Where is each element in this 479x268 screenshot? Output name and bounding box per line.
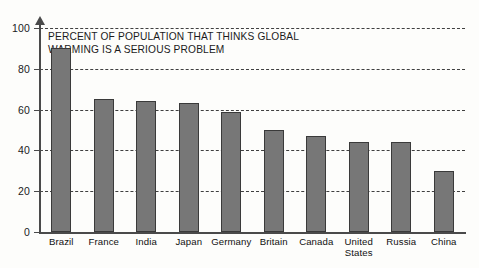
x-label-germany: Germany (210, 236, 253, 247)
bar-slot (349, 28, 369, 232)
y-tick-label-100: 100 (4, 22, 30, 34)
bar-france (94, 99, 114, 232)
bar-united-states (349, 142, 369, 232)
y-tick-label-60: 60 (4, 104, 30, 116)
bar-slot (264, 28, 284, 232)
bar-slot (391, 28, 411, 232)
y-tick-label-20: 20 (4, 185, 30, 197)
x-axis-category-labels: BrazilFranceIndiaJapanGermanyBritainCana… (40, 236, 465, 266)
x-label-brazil: Brazil (40, 236, 83, 247)
x-label-france: France (83, 236, 126, 247)
x-label-britain: Britain (253, 236, 296, 247)
bar-slot (306, 28, 326, 232)
bar-slot (179, 28, 199, 232)
y-tick-0 (34, 232, 43, 233)
x-label-canada: Canada (295, 236, 338, 247)
bar-brazil (51, 48, 71, 232)
x-label-japan: Japan (168, 236, 211, 247)
x-axis-line (39, 232, 466, 234)
x-label-russia: Russia (380, 236, 423, 247)
bar-india (136, 101, 156, 232)
y-tick-label-0: 0 (4, 226, 30, 238)
x-label-india: India (125, 236, 168, 247)
y-tick-label-80: 80 (4, 63, 30, 75)
bar-series (40, 28, 465, 232)
x-label-china: China (423, 236, 466, 247)
bar-chart: 020406080100 PERCENT OF POPULATION THAT … (0, 0, 479, 268)
bar-china (434, 171, 454, 232)
bar-canada (306, 136, 326, 232)
bar-slot (434, 28, 454, 232)
x-label-united-states: United States (338, 236, 381, 259)
bar-slot (94, 28, 114, 232)
bar-japan (179, 103, 199, 232)
y-tick-label-40: 40 (4, 144, 30, 156)
bar-germany (221, 112, 241, 232)
bar-britain (264, 130, 284, 232)
bar-slot (51, 28, 71, 232)
bar-slot (221, 28, 241, 232)
bar-russia (391, 142, 411, 232)
bar-slot (136, 28, 156, 232)
